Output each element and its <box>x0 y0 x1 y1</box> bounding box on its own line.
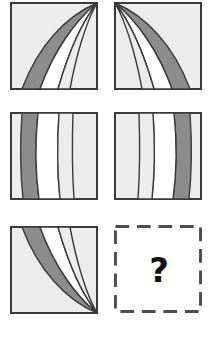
puzzle-cell-1[interactable] <box>10 2 98 90</box>
vertical-bands-gray-left-icon <box>10 112 98 200</box>
puzzle-grid: ? <box>0 0 217 341</box>
converging-bands-top-right-icon <box>10 2 98 90</box>
converging-bands-top-left-icon <box>114 2 202 90</box>
puzzle-cell-2[interactable] <box>114 2 202 90</box>
puzzle-cell-4[interactable] <box>114 112 202 200</box>
dashed-border-icon <box>114 225 202 313</box>
converging-bands-bottom-right-icon <box>10 226 98 314</box>
vertical-bands-gray-right-icon <box>114 112 202 200</box>
puzzle-answer-cell[interactable]: ? <box>114 225 204 315</box>
puzzle-cell-3[interactable] <box>10 112 98 200</box>
puzzle-cell-5[interactable] <box>10 226 98 314</box>
